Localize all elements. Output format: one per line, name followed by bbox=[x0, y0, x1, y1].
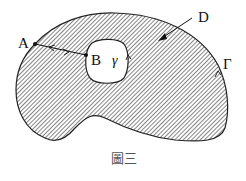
point-b bbox=[84, 53, 88, 57]
label-b: B bbox=[91, 52, 101, 68]
region-diagram: A B γ D Γ 圖三 bbox=[0, 0, 246, 181]
region-d-shaded bbox=[16, 13, 228, 141]
label-d: D bbox=[198, 9, 209, 25]
label-gamma-upper: Γ bbox=[223, 56, 232, 72]
figure-caption: 圖三 bbox=[111, 151, 137, 166]
label-gamma-lower: γ bbox=[112, 53, 118, 68]
point-a bbox=[33, 42, 37, 46]
label-a: A bbox=[18, 35, 29, 51]
